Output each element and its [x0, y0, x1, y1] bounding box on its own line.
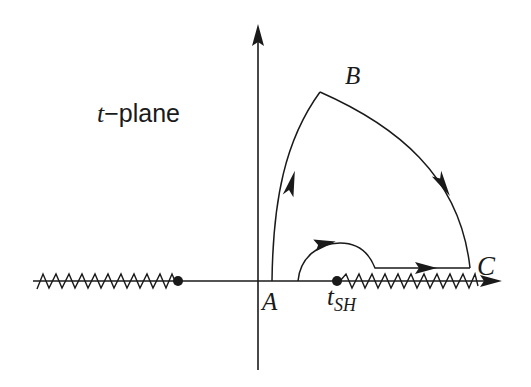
arrow-A-B-icon — [283, 169, 300, 197]
saddle-label-subscript: SH — [334, 295, 356, 315]
plane-word: plane — [119, 99, 180, 127]
arrow-B-C-icon — [432, 171, 455, 199]
point-label-C: C — [477, 253, 495, 280]
saddle-label-base: t — [327, 283, 334, 310]
plane-dash: − — [104, 99, 119, 127]
saddle-point-label: tSH — [327, 284, 356, 314]
plane-label: t−plane — [97, 101, 180, 127]
contour-segment-B-C — [320, 92, 470, 268]
left-branch-point — [173, 276, 183, 286]
point-label-B: B — [345, 63, 360, 88]
diagram-canvas: t−plane A B C tSH — [0, 0, 531, 387]
point-label-A: A — [262, 289, 277, 314]
contour-diagram — [0, 0, 531, 387]
